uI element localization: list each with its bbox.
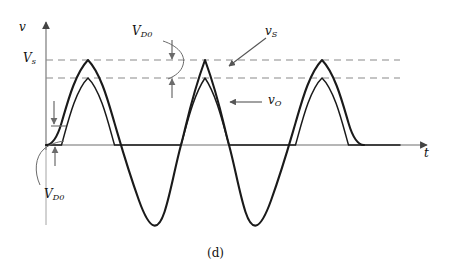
x-axis-label: t bbox=[424, 146, 429, 160]
waveform-plot bbox=[0, 0, 451, 277]
vs-leader-arrow bbox=[229, 38, 266, 66]
vs-curve-label: vS bbox=[265, 24, 277, 39]
vd0-top-label: VD0 bbox=[132, 24, 152, 39]
y-axis-label: v bbox=[19, 20, 26, 34]
figure-caption: (d) bbox=[207, 246, 224, 260]
curve-vo-output-rectified bbox=[46, 78, 400, 145]
vd0-bottom-leader-line bbox=[36, 141, 64, 185]
figure-halfwave-rectifier-waveforms: v t Vs VD0 VD0 vS vO (d) bbox=[0, 0, 451, 277]
vd0-bottom-measure-arrow bbox=[36, 141, 64, 185]
axis-lines bbox=[46, 22, 427, 225]
vd0-bottom-label: VD0 bbox=[44, 187, 64, 202]
vs-peak-level-label: Vs bbox=[23, 51, 36, 66]
vo-curve-label: vO bbox=[268, 93, 281, 108]
